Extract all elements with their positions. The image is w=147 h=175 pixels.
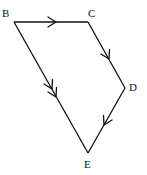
- vertex-label-e: E: [84, 158, 91, 170]
- edge-de: [88, 88, 125, 153]
- vertex-label-c: C: [88, 7, 95, 19]
- vertex-label-d: D: [129, 81, 137, 93]
- edge-cd: [88, 22, 125, 88]
- vertex-label-b: B: [2, 7, 9, 19]
- vector-diagram: B C D E: [0, 0, 147, 175]
- edge-be: [14, 22, 88, 153]
